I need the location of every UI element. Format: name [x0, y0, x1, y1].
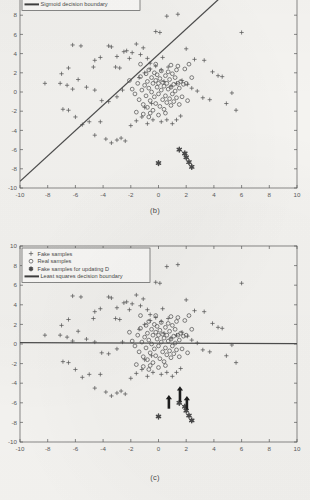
- plus-marker: [134, 371, 138, 375]
- plus-marker: [93, 58, 97, 62]
- plus-marker: [107, 44, 111, 48]
- circle-marker: [180, 347, 184, 351]
- plus-marker: [170, 374, 174, 378]
- y-tick-label: -10: [8, 438, 18, 445]
- plus-marker: [98, 372, 102, 376]
- plus-marker: [91, 65, 95, 69]
- circle-marker: [169, 63, 173, 67]
- circle-marker: [175, 96, 179, 100]
- plus-marker: [154, 29, 158, 33]
- plus-marker: [125, 49, 129, 53]
- plus-marker: [66, 66, 70, 70]
- legend-entry-label: Fake samples: [38, 251, 73, 257]
- star-marker: [156, 161, 160, 166]
- plus-marker: [93, 88, 97, 92]
- plus-marker: [129, 376, 133, 380]
- circle-marker: [172, 334, 176, 338]
- circle-marker: [177, 355, 181, 359]
- plus-marker: [71, 294, 75, 298]
- circle-marker: [165, 353, 169, 357]
- x-tick-label: -8: [45, 191, 51, 198]
- decision-boundary-line: [20, 0, 222, 181]
- plus-marker: [93, 340, 97, 344]
- circle-marker: [130, 87, 134, 91]
- circle-marker: [141, 103, 145, 107]
- circle-marker: [141, 112, 145, 116]
- arrow-head: [177, 386, 183, 390]
- circle-marker: [168, 329, 172, 333]
- plus-marker: [141, 297, 145, 301]
- circle-marker: [187, 62, 191, 66]
- plus-marker: [201, 96, 205, 100]
- circle-marker: [155, 85, 159, 89]
- plus-marker: [58, 81, 62, 85]
- x-tick-label: 6: [240, 191, 244, 198]
- circle-marker: [133, 344, 137, 348]
- star-marker: [187, 160, 191, 165]
- plus-marker: [208, 350, 212, 354]
- plus-marker: [224, 101, 228, 105]
- circle-marker: [170, 323, 174, 327]
- panel-b: -10-8-6-4-202468101086420-2-4-6-8-10Fake…: [0, 0, 310, 212]
- plus-marker: [87, 372, 91, 376]
- x-tick-label: -10: [16, 191, 26, 198]
- arrow-head: [166, 395, 172, 399]
- circle-marker: [164, 364, 168, 368]
- circle-marker: [190, 327, 194, 331]
- plus-marker: [148, 313, 152, 317]
- circle-marker: [162, 107, 166, 111]
- x-tick-label: 2: [184, 191, 188, 198]
- star-marker: [184, 155, 188, 160]
- plot-area: [20, 0, 244, 181]
- plus-marker: [43, 333, 47, 337]
- plus-marker: [234, 361, 238, 365]
- x-tick-label: 10: [294, 191, 301, 198]
- series-star: [156, 400, 193, 422]
- plus-marker: [176, 12, 180, 16]
- star-marker: [177, 147, 181, 152]
- circle-marker: [177, 86, 181, 90]
- plus-marker: [165, 118, 169, 122]
- circle-marker: [152, 347, 156, 351]
- circle-marker: [164, 74, 168, 78]
- plus-marker: [201, 348, 205, 352]
- plot-area: [20, 263, 297, 423]
- circle-marker: [187, 314, 191, 318]
- arrow-head: [184, 396, 190, 400]
- plus-marker: [109, 45, 113, 49]
- plus-marker: [93, 310, 97, 314]
- plus-marker: [234, 108, 238, 112]
- plot-frame: [20, 0, 297, 188]
- y-tick-label: 0: [14, 88, 18, 95]
- figure-container: -10-8-6-4-202468101086420-2-4-6-8-10Fake…: [0, 0, 310, 500]
- plus-marker: [71, 43, 75, 47]
- plus-marker: [109, 141, 113, 145]
- legend: Fake samplesReal samplesFake samples for…: [22, 248, 150, 282]
- circle-marker: [169, 356, 173, 360]
- x-tick-label: -2: [128, 445, 134, 452]
- plus-marker: [158, 281, 162, 285]
- circle-marker: [176, 64, 180, 68]
- circle-marker: [150, 327, 154, 331]
- plus-marker: [134, 293, 138, 297]
- circle-marker: [139, 314, 143, 318]
- x-tick-label: 0: [157, 445, 161, 452]
- plus-marker: [107, 295, 111, 299]
- plus-marker: [115, 306, 119, 310]
- plus-marker: [58, 333, 62, 337]
- plus-marker: [65, 335, 69, 339]
- y-tick-label: 4: [14, 301, 18, 308]
- circle-marker: [173, 76, 177, 80]
- plus-marker: [184, 47, 188, 51]
- y-tick-label: -8: [11, 419, 17, 426]
- plus-marker: [65, 83, 69, 87]
- scatter-plot-b: -10-8-6-4-202468101086420-2-4-6-8-10Fake…: [0, 0, 310, 212]
- circle-marker: [147, 368, 151, 372]
- series-plus: [43, 263, 244, 399]
- circle-marker: [139, 62, 143, 66]
- circle-marker: [177, 338, 181, 342]
- plus-marker: [115, 391, 119, 395]
- circle-marker: [157, 113, 161, 117]
- plus-marker: [66, 108, 70, 112]
- circle-marker: [146, 331, 150, 335]
